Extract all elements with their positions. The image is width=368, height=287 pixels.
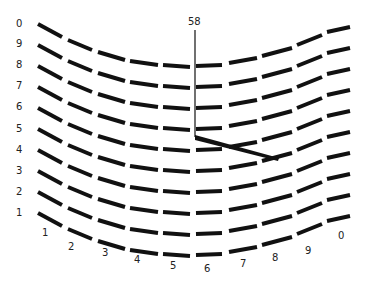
column-label: 7 [240, 258, 246, 269]
arc-dash [98, 178, 125, 186]
arc-dash [297, 182, 322, 192]
arc-dash [297, 77, 322, 87]
arc-dash [297, 161, 322, 171]
arc-dash [98, 199, 125, 207]
arc-dash [327, 153, 350, 158]
row-label: 1 [16, 207, 22, 218]
arc-dash [68, 61, 92, 71]
arc-dash [98, 73, 125, 81]
row-label: 0 [16, 18, 22, 29]
arc-dash [38, 66, 62, 79]
arc-dash [229, 247, 257, 252]
arc-dash [68, 103, 92, 113]
row-label: 6 [16, 101, 22, 112]
arc-dash [196, 212, 222, 213]
arc-dash [262, 174, 292, 182]
arc-dash [68, 166, 92, 176]
row-label: 3 [16, 165, 22, 176]
arc-dash [98, 94, 125, 102]
arc-dash [130, 82, 158, 86]
column-label: 5 [170, 260, 176, 271]
arc-dash [98, 157, 125, 165]
arc-dash [130, 229, 158, 233]
arc-dash [130, 124, 158, 128]
arc-dash [229, 163, 257, 168]
arc-dash [163, 65, 190, 67]
arc-dash [229, 205, 257, 210]
arc-row [38, 192, 350, 235]
arc-dash [327, 216, 350, 221]
arc-dash [130, 145, 158, 149]
arc-dash [262, 237, 292, 245]
arc-dash [229, 184, 257, 189]
arc-dash [130, 103, 158, 107]
arc-dash [68, 208, 92, 218]
arc-dash [262, 48, 292, 56]
vernier-scale-diagram: 0987654321 1234567890 58 [0, 0, 368, 287]
arc-row [38, 150, 350, 193]
arc-dash [68, 187, 92, 197]
arc-dash [297, 140, 322, 150]
arc-dash [38, 108, 62, 121]
arc-dash [262, 69, 292, 77]
column-label: 1 [42, 227, 48, 238]
arc-dash [262, 90, 292, 98]
arc-dash [38, 45, 62, 58]
readout-value: 58 [188, 16, 201, 27]
arc-row [38, 45, 350, 88]
arc-dash [327, 27, 350, 32]
arc-dash [98, 220, 125, 228]
arc-dash [68, 82, 92, 92]
arc-dash [130, 187, 158, 191]
arc-dash [229, 58, 257, 63]
arc-dash [130, 61, 158, 65]
arc-dash [98, 52, 125, 60]
arc-dash [130, 166, 158, 170]
arc-dash [130, 208, 158, 212]
column-label: 2 [68, 241, 74, 252]
arc-dash [68, 40, 92, 50]
arc-dash [38, 192, 62, 205]
arc-dash [297, 119, 322, 129]
arc-row [38, 171, 350, 214]
arc-dash [327, 69, 350, 74]
arc-dash [327, 90, 350, 95]
column-label: 9 [305, 245, 311, 256]
arc-dash [163, 170, 190, 172]
arc-dash [68, 124, 92, 134]
row-label: 7 [16, 80, 22, 91]
arc-dash [229, 121, 257, 126]
arc-dash [196, 107, 222, 108]
arc-dash [163, 191, 190, 193]
arc-dash [297, 98, 322, 108]
arc-dash [196, 65, 222, 66]
arc-dash [196, 233, 222, 234]
arc-dash [327, 195, 350, 200]
arc-row [38, 129, 350, 172]
row-label: 5 [16, 123, 22, 134]
arc-dash [163, 254, 190, 256]
arc-dash [196, 128, 222, 129]
row-label: 2 [16, 186, 22, 197]
arc-dash [163, 128, 190, 130]
arc-dash [163, 149, 190, 151]
arc-dash [229, 226, 257, 231]
arc-rows [38, 24, 350, 256]
column-label: 4 [134, 254, 140, 265]
arc-dash [38, 150, 62, 163]
arc-row [38, 213, 350, 256]
arc-dash [38, 213, 62, 226]
column-label: 8 [272, 252, 278, 263]
arc-row [38, 87, 350, 130]
arc-dash [68, 145, 92, 155]
row-label: 9 [16, 38, 22, 49]
arc-dash [229, 100, 257, 105]
arc-dash [262, 216, 292, 224]
arc-dash [163, 233, 190, 235]
row-label: 4 [16, 144, 22, 155]
arc-dash [98, 136, 125, 144]
arc-dash [196, 191, 222, 192]
arc-dash [38, 171, 62, 184]
arc-dash [262, 195, 292, 203]
arc-dash [297, 224, 322, 234]
